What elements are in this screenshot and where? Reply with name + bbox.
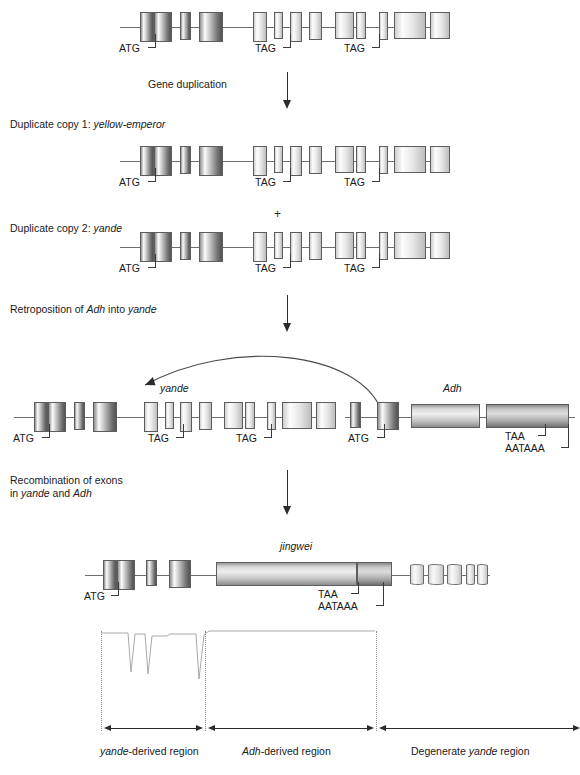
region-arrowhead-left (208, 725, 215, 731)
region-arrow-line (110, 728, 197, 729)
region-label-degenerate-yande: Degenerate yande region (411, 745, 530, 758)
region-arrowhead-right (196, 725, 203, 731)
region-arrowhead-right (367, 725, 374, 731)
region-arrow-line (385, 728, 574, 729)
region-label-yande-derived: yande-derived region (100, 745, 199, 758)
region-arrowhead-right (573, 725, 580, 731)
region-arrow-line (214, 728, 368, 729)
region-arrowhead-left (379, 725, 386, 731)
region-arrowhead-left (104, 725, 111, 731)
region-label-adh-derived: Adh-derived region (242, 745, 331, 758)
